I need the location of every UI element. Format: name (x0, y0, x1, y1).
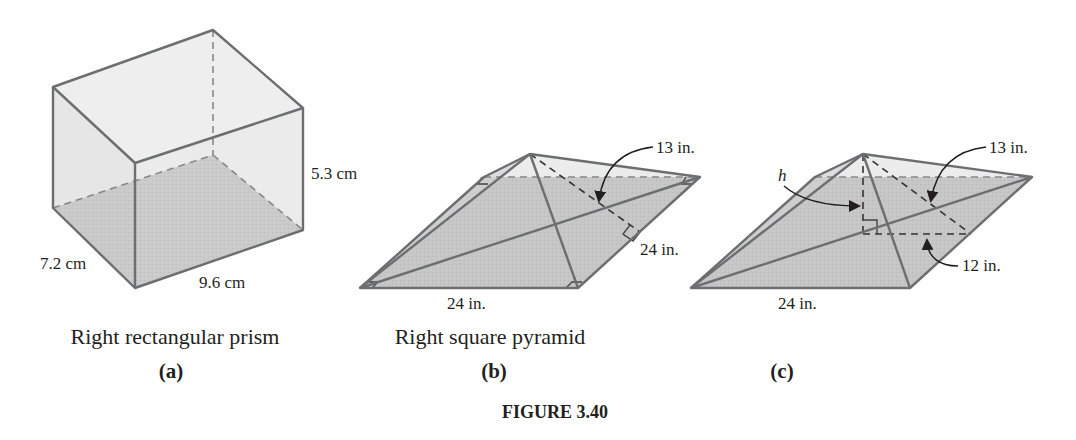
caption-a: Right rectangular prism (71, 324, 280, 349)
sublabel-c: (c) (770, 359, 793, 383)
pyramid-c-slant-label: 13 in. (989, 138, 1028, 157)
figure-canvas: 5.3 cm 7.2 cm 9.6 cm 13 in. 24 in. 24 in… (0, 0, 1076, 440)
square-pyramid-b: 13 in. 24 in. 24 in. (360, 138, 700, 313)
rectangular-prism: 5.3 cm 7.2 cm 9.6 cm (40, 30, 357, 292)
sublabel-b: (b) (481, 359, 507, 383)
sublabel-a: (a) (159, 359, 184, 383)
pyramid-c-front-label: 24 in. (778, 294, 817, 313)
figure-title: FIGURE 3.40 (502, 402, 608, 422)
pyramid-b-front-label: 24 in. (447, 294, 486, 313)
prism-height-label: 5.3 cm (311, 164, 357, 183)
pyramid-b-slant-label: 13 in. (656, 138, 695, 157)
pyramid-b-side-label: 24 in. (640, 240, 679, 259)
caption-b: Right square pyramid (395, 324, 586, 349)
prism-width-label: 9.6 cm (199, 273, 245, 292)
prism-depth-label: 7.2 cm (40, 254, 86, 273)
pyramid-c-height-label: h (778, 166, 787, 185)
pyramid-c-half-base-label: 12 in. (962, 256, 1001, 275)
square-pyramid-c: h 13 in. 12 in. 24 in. (691, 138, 1032, 313)
